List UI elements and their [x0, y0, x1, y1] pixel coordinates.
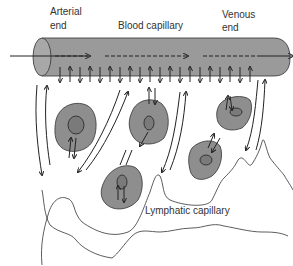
blood-capillary-label: Blood capillary	[118, 20, 183, 31]
venous-end-label-line2: end	[222, 22, 239, 33]
tissue-cell-1	[55, 103, 96, 158]
tissue-cell-5	[189, 134, 222, 179]
arterial-end-label-line2: end	[50, 20, 67, 31]
diagram-canvas: Arterial end Blood capillary Venous end …	[0, 0, 293, 266]
tissue-cell-3	[101, 150, 142, 209]
arterial-end-label: Arterial	[50, 6, 82, 17]
venous-end-label: Venous	[222, 9, 255, 20]
lymphatic-capillary-lower-outline	[42, 190, 288, 258]
tissue-cell-2	[129, 88, 168, 146]
blood-capillary	[10, 38, 293, 76]
lymphatic-capillary-label: Lymphatic capillary	[145, 205, 230, 216]
tissue-cell-4	[217, 96, 252, 130]
capillary-exchange-diagram: Arterial end Blood capillary Venous end …	[0, 0, 293, 266]
